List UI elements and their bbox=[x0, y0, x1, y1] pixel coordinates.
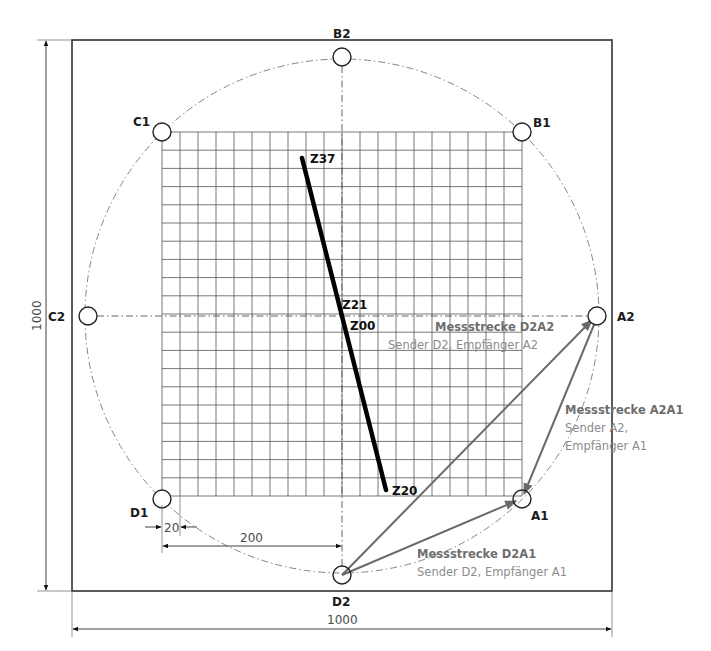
dim-20-label: 20 bbox=[164, 521, 179, 535]
sensor-b2: B2 bbox=[333, 27, 351, 66]
z20-label: Z20 bbox=[392, 484, 417, 498]
path-a2a1-subtitle-2: Empfänger A1 bbox=[565, 439, 647, 453]
z00-label: Z00 bbox=[350, 319, 375, 333]
path-d2a1-arrow bbox=[342, 501, 516, 575]
path-d2a2-title: Messstrecke D2A2 bbox=[435, 320, 554, 334]
z37-label: Z37 bbox=[310, 152, 335, 166]
dim-bottom-label: 1000 bbox=[327, 613, 358, 627]
sensor-c1: C1 bbox=[133, 115, 171, 141]
svg-text:A2: A2 bbox=[617, 310, 635, 324]
path-d2a2-subtitle: Sender D2, Empfänger A2 bbox=[388, 338, 538, 352]
sensor-a1: A1 bbox=[513, 490, 549, 523]
z21-label: Z21 bbox=[342, 298, 367, 312]
svg-text:A1: A1 bbox=[531, 509, 549, 523]
path-d2a2-arrow bbox=[342, 320, 592, 575]
dim-left-label: 1000 bbox=[30, 300, 44, 331]
path-a2a1-title: Messstrecke A2A1 bbox=[565, 403, 684, 417]
sensor-d1: D1 bbox=[130, 490, 171, 520]
svg-text:C1: C1 bbox=[133, 115, 150, 129]
svg-text:D1: D1 bbox=[130, 506, 148, 520]
path-a2a1-subtitle-1: Sender A2, bbox=[565, 421, 628, 435]
path-d2a1-subtitle: Sender D2, Empfänger A1 bbox=[417, 565, 567, 579]
dim-200-label: 200 bbox=[240, 531, 263, 545]
measurement-diagram: Z37 Z21 Z00 Z20 A1 A2 B1 B2 C1 C2 D1 D2 … bbox=[0, 0, 711, 651]
svg-text:B1: B1 bbox=[533, 116, 551, 130]
svg-text:D2: D2 bbox=[332, 595, 350, 609]
sensor-b1: B1 bbox=[513, 116, 551, 141]
svg-text:B2: B2 bbox=[333, 27, 351, 41]
svg-text:C2: C2 bbox=[48, 310, 65, 324]
path-d2a1-title: Messstrecke D2A1 bbox=[417, 547, 536, 561]
